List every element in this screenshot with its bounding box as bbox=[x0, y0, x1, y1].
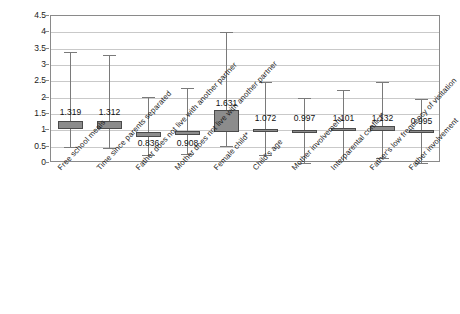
whisker-cap-upper bbox=[298, 98, 311, 99]
y-tick-mark bbox=[45, 64, 49, 65]
y-tick-mark bbox=[45, 48, 49, 49]
whisker-cap-upper bbox=[337, 90, 350, 91]
whisker-cap-upper bbox=[415, 99, 428, 100]
y-tick-mark bbox=[45, 146, 49, 147]
y-tick-label: 0 bbox=[2, 158, 46, 167]
y-tick-mark bbox=[45, 31, 49, 32]
y-tick-label: 3.5 bbox=[2, 43, 46, 52]
box bbox=[175, 131, 200, 135]
y-tick-label: 1.5 bbox=[2, 109, 46, 118]
box bbox=[292, 130, 317, 133]
data-label: 1.312 bbox=[83, 107, 137, 117]
whisker-cap-upper bbox=[181, 88, 194, 89]
y-tick-label: 3 bbox=[2, 60, 46, 69]
whisker-cap-upper bbox=[142, 97, 155, 98]
y-tick-mark bbox=[45, 80, 49, 81]
whisker-cap-upper bbox=[376, 82, 389, 83]
y-tick-label: 4 bbox=[2, 27, 46, 36]
y-tick-label: 2.5 bbox=[2, 76, 46, 85]
y-tick-label: 2 bbox=[2, 92, 46, 101]
box bbox=[253, 129, 278, 132]
box bbox=[136, 132, 161, 137]
y-tick-mark bbox=[45, 129, 49, 130]
box bbox=[58, 121, 83, 129]
whisker-cap-upper bbox=[64, 52, 77, 53]
y-tick-mark bbox=[45, 15, 49, 16]
y-axis: 00.511.522.533.544.5 bbox=[0, 15, 46, 162]
y-tick-mark bbox=[45, 162, 49, 163]
x-axis-labels: Free school mealsTime since parents sepa… bbox=[50, 162, 440, 312]
y-tick-label: 1 bbox=[2, 125, 46, 134]
whisker-cap-upper bbox=[220, 32, 233, 33]
y-tick-label: 0.5 bbox=[2, 141, 46, 150]
whisker-cap-upper bbox=[103, 55, 116, 56]
y-tick-label: 4.5 bbox=[2, 11, 46, 20]
y-tick-mark bbox=[45, 97, 49, 98]
whisker-line bbox=[109, 55, 110, 148]
whisker-line bbox=[70, 52, 71, 147]
